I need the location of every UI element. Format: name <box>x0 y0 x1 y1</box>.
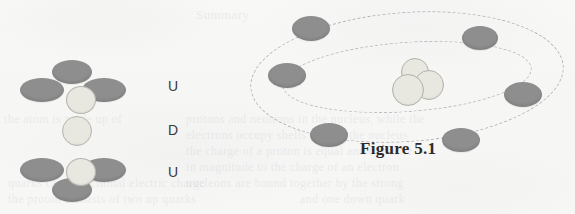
quark-core <box>62 116 92 146</box>
quark-lobe <box>20 78 64 102</box>
quark-composition-diagram: UDU <box>16 60 206 210</box>
quark-label-u-2: U <box>168 164 178 180</box>
ghost-text-line: and one down quark <box>300 192 405 207</box>
electron-bottom-right <box>442 128 480 152</box>
figure-caption: Figure 5.1 <box>360 139 436 159</box>
electron-bottom-left <box>310 123 348 147</box>
electron-mid-right <box>504 82 542 107</box>
quark-lobe <box>52 60 92 84</box>
nucleon-left <box>392 74 424 106</box>
electron-mid-left <box>268 63 306 88</box>
quark-label-d-1: D <box>168 122 178 138</box>
figure-page: Summarythe atom is made up ofprotons and… <box>0 0 575 214</box>
electron-top-left <box>292 16 330 41</box>
quark-lobe <box>20 158 64 182</box>
quark-core <box>66 86 96 114</box>
electron-top-right <box>462 26 498 50</box>
ghost-text-line: Summary <box>196 7 249 23</box>
quark-label-u-0: U <box>168 78 178 94</box>
ghost-text-line: nucleons are bound together by the stron… <box>186 176 404 191</box>
quark-core <box>66 158 96 186</box>
